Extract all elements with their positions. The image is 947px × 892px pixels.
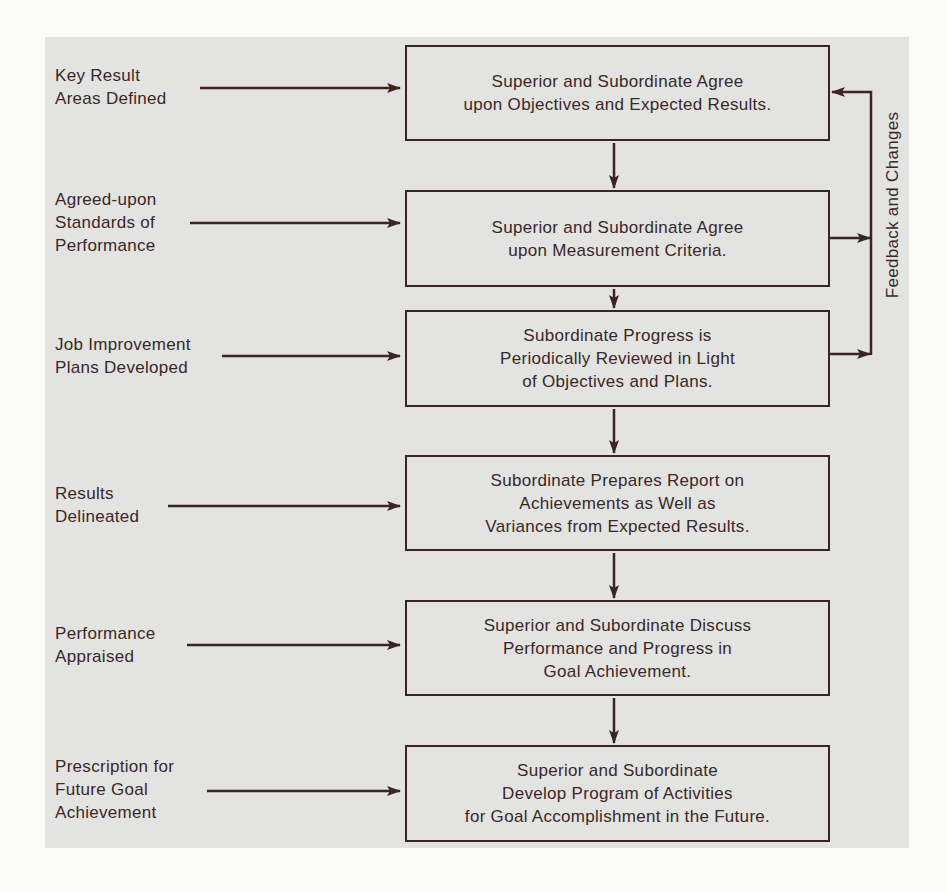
step-box-agree-objectives: Superior and Subordinate Agree upon Obje… (405, 45, 830, 141)
input-label-job-improvement-plans: Job Improvement Plans Developed (55, 333, 191, 379)
step-box-agree-measurement: Superior and Subordinate Agree upon Meas… (405, 190, 830, 287)
step-box-progress-reviewed: Subordinate Progress is Periodically Rev… (405, 310, 830, 407)
input-label-standards-of-performance: Agreed-upon Standards of Performance (55, 188, 157, 257)
step-box-develop-program: Superior and Subordinate Develop Program… (405, 745, 830, 842)
input-label-results-delineated: Results Delineated (55, 482, 139, 528)
step-box-prepare-report: Subordinate Prepares Report on Achieveme… (405, 455, 830, 551)
diagram-panel (45, 37, 909, 848)
input-label-prescription-future-goal: Prescription for Future Goal Achievement (55, 755, 174, 824)
step-box-discuss-performance: Superior and Subordinate Discuss Perform… (405, 600, 830, 696)
input-label-performance-appraised: Performance Appraised (55, 622, 156, 668)
feedback-label: Feedback and Changes (883, 112, 903, 299)
input-label-key-result-areas: Key Result Areas Defined (55, 64, 167, 110)
